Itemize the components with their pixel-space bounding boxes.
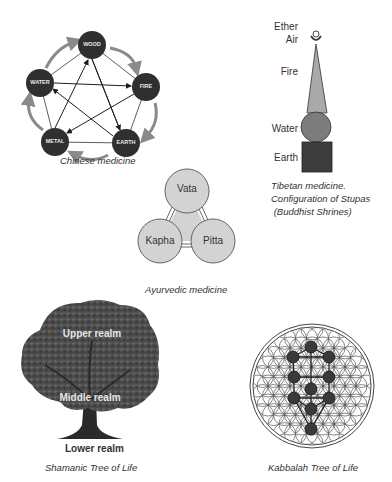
kabbalah-caption: Kabbalah Tree of Life xyxy=(268,462,358,473)
sephirah-node xyxy=(323,371,335,383)
sephirah-node xyxy=(305,383,317,395)
sephirah-node xyxy=(305,403,317,415)
flower-of-life-graphic xyxy=(0,0,392,482)
sephirah-node xyxy=(288,371,300,383)
sephirah-node xyxy=(305,423,317,435)
sephirah-node xyxy=(323,392,335,404)
sephirah-node xyxy=(288,392,300,404)
sephirah-node xyxy=(287,351,299,363)
sephirah-node xyxy=(323,351,335,363)
sephirah-node xyxy=(305,341,317,353)
